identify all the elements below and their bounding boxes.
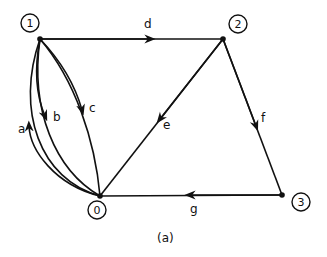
node-1-dot [37, 36, 43, 42]
figure-caption: (a) [157, 231, 174, 245]
edge-f-label: f [261, 111, 266, 125]
svg-text:2: 2 [235, 18, 242, 31]
edge-d-label: d [144, 17, 152, 31]
edge-c [40, 39, 100, 196]
edge-b [38, 39, 100, 196]
edge-c-label: c [89, 101, 96, 115]
node-2-dot [220, 36, 226, 42]
edge-g-label: g [190, 202, 198, 216]
graph-diagram: 1 2 3 0 a b c d e f g (a) [0, 0, 327, 257]
node-3-label: 3 [292, 193, 310, 211]
svg-text:3: 3 [298, 196, 305, 209]
node-2-label: 2 [229, 15, 247, 33]
node-1-label: 1 [21, 14, 39, 32]
node-3-dot [279, 192, 285, 198]
edge-a-label: a [18, 122, 25, 136]
svg-text:1: 1 [27, 17, 34, 30]
edge-b-label: b [53, 110, 61, 124]
edge-e-label: e [163, 118, 170, 132]
node-0-label: 0 [88, 201, 106, 219]
node-0-dot [97, 193, 103, 199]
edge-a [30, 39, 100, 196]
svg-text:0: 0 [94, 204, 101, 217]
